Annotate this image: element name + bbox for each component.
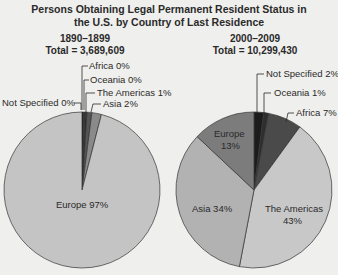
left-label-oceania: Oceania 0%: [90, 74, 142, 85]
right-label-africa: Africa 7%: [296, 107, 337, 118]
left-label-africa: Africa 0%: [89, 60, 130, 71]
left-label-asia: Asia 2%: [103, 98, 138, 109]
left-label-not-specified: Not Specified 0%: [2, 97, 75, 108]
pie-slice-europe: [4, 112, 160, 268]
pie-2000-2009: [176, 112, 332, 268]
right-label-europe-pct: 13%: [221, 140, 241, 151]
pie-1890-1899: [4, 112, 160, 268]
right-label-europe: Europe: [214, 128, 245, 139]
right-label-asia: Asia 34%: [192, 203, 233, 214]
right-label-americas: The Americas: [265, 203, 323, 214]
right-label-americas-pct: 43%: [283, 215, 303, 226]
right-label-not-specified: Not Specified 2%: [266, 68, 338, 79]
left-label-americas: The Americas 1%: [97, 87, 172, 98]
right-label-oceania: Oceania 1%: [274, 87, 326, 98]
left-label-europe: Europe 97%: [56, 199, 109, 210]
pie-charts: Africa 0% Oceania 0% The Americas 1% Not…: [0, 0, 338, 275]
